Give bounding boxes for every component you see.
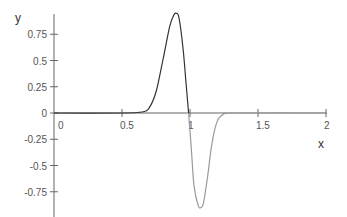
chart: y x 00.511.52 0.750.50.250-0.25-0.5-0.75 xyxy=(0,0,347,217)
y-axis-label: y xyxy=(15,11,21,25)
y-tick-label: 0.75 xyxy=(28,29,48,40)
y-tick-label: 0 xyxy=(41,108,47,119)
y-ticks: 0.750.50.250-0.25-0.5-0.75 xyxy=(24,29,58,198)
x-axis-label: x xyxy=(318,137,324,151)
series-line-positive-lobe xyxy=(54,13,189,113)
y-tick-label: -0.25 xyxy=(24,134,47,145)
y-tick-label: -0.5 xyxy=(30,161,48,172)
axes: y x xyxy=(15,11,327,217)
x-tick-label: 0 xyxy=(58,120,64,131)
x-ticks: 00.511.52 xyxy=(58,109,330,131)
y-tick-label: 0.25 xyxy=(28,82,48,93)
y-tick-label: -0.75 xyxy=(24,187,47,198)
x-tick-label: 2 xyxy=(324,120,330,131)
y-tick-label: 0.5 xyxy=(33,56,47,67)
x-tick-label: 0.5 xyxy=(120,120,134,131)
x-tick-label: 1.5 xyxy=(256,120,270,131)
